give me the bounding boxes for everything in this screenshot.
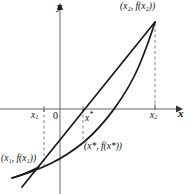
tick-label-x1: x1 [31,111,38,121]
point-label-x1: (x₁, f(x₁)) [1,154,36,164]
origin-label: 0 [53,111,58,121]
curve-tail-left [12,167,39,178]
tick-label-x2: x2 [150,111,157,121]
chord-line [22,22,155,187]
figure-canvas: y x 0 x1 x* x2 (x₂, f(x₂)) (x₁, f(x₁)) (… [0,0,189,194]
y-axis-label: y [57,1,62,12]
point-label-x2: (x₂, f(x₂)) [120,2,155,12]
point-label-xstar: (x*, f(x*)) [84,142,122,152]
x-axis-label: x [178,108,184,119]
diagram-svg [0,0,189,194]
tick-label-xstar: x* [85,111,93,124]
